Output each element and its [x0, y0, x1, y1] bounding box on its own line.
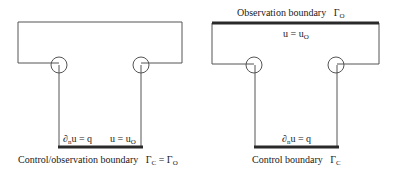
right-observation-label: u = uO	[283, 29, 309, 41]
observation-boundary-caption: Observation boundary ΓO	[237, 8, 345, 20]
left-observation-label: u = uO	[110, 134, 136, 146]
left-corner-circle	[246, 57, 262, 73]
right-t-domain	[212, 23, 379, 147]
left-neumann-label: ∂nu = q	[63, 134, 92, 146]
diagram-canvas	[0, 0, 398, 177]
control-boundary-caption: Control boundary ΓC	[252, 155, 341, 167]
left-t-domain	[18, 22, 182, 147]
right-corner-circle	[328, 57, 344, 73]
right-neumann-label: ∂nu = q	[282, 134, 311, 146]
left-caption: Control/observation boundary ΓC = ΓO	[18, 155, 178, 167]
